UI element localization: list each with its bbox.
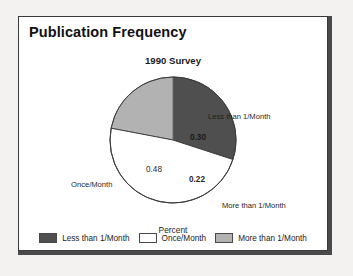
legend-swatch-icon — [139, 233, 157, 243]
page-title: Publication Frequency — [29, 24, 187, 40]
chart-subtitle: 1990 Survey — [19, 55, 327, 66]
pie-value-more-than-1-month: 0.22 — [189, 175, 205, 184]
legend-swatch-icon — [39, 233, 57, 243]
pie-value-once-month: 0.48 — [146, 165, 162, 174]
legend-item-once-month[interactable]: Once/Month — [139, 233, 207, 243]
legend-item-more-than-1-month[interactable]: More than 1/Month — [215, 233, 307, 243]
legend-item-less-than-1-month[interactable]: Less than 1/Month — [39, 233, 129, 243]
pie-callout-more-than-1-month: More than 1/Month — [222, 201, 286, 210]
legend-item-label: Less than 1/Month — [62, 234, 129, 243]
legend-item-label: Once/Month — [162, 234, 207, 243]
pie-chart — [19, 75, 327, 205]
pie-chart-svg — [108, 75, 238, 205]
legend-swatch-icon — [215, 233, 233, 243]
chart-legend: Less than 1/Month Once/Month More than 1… — [19, 233, 327, 243]
chart-panel: Publication Frequency 1990 Survey Less t… — [18, 16, 328, 251]
pie-callout-less-than-1-month: Less than 1/Month — [208, 112, 270, 121]
pie-callout-once-month: Once/Month — [71, 180, 112, 189]
legend-item-label: More than 1/Month — [238, 234, 307, 243]
pie-value-less-than-1-month: 0.30 — [190, 133, 206, 142]
